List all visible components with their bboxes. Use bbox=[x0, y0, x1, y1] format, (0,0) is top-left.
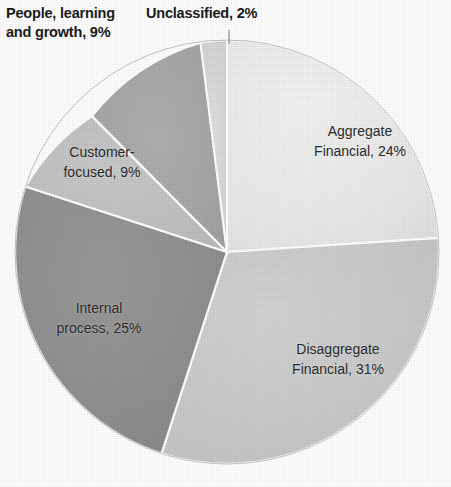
slice-label-aggregate-financial: Aggregate Financial, 24% bbox=[290, 122, 430, 162]
slice-label-unclassified: Unclassified, 2% bbox=[146, 4, 257, 23]
slice-label-customer-focused: Customer- focused, 9% bbox=[32, 143, 172, 183]
slice-label-internal-process: Internal process, 25% bbox=[24, 299, 174, 339]
slice-label-people-learning-growth: People, learning and growth, 9% bbox=[6, 4, 115, 42]
slice-label-disaggregate-financial: Disaggregate Financial, 31% bbox=[256, 340, 420, 380]
pie-chart-canvas bbox=[0, 0, 451, 487]
pie-chart-figure: People, learning and growth, 9% Unclassi… bbox=[0, 0, 451, 487]
